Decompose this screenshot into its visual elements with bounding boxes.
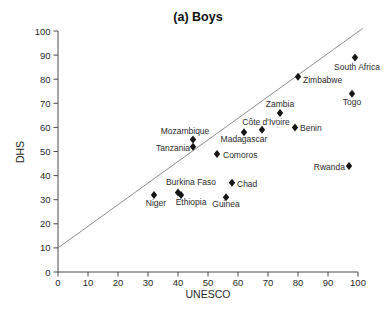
x-tick-label: 70 — [263, 277, 274, 288]
x-axis-label: UNESCO — [186, 288, 231, 300]
data-point-label: Tanzania — [156, 143, 190, 153]
y-tick-label: 0 — [45, 267, 50, 278]
data-point-label: Rwanda — [314, 162, 345, 172]
data-point-label: Zambia — [266, 99, 295, 109]
y-tick-label: 20 — [40, 218, 51, 229]
y-axis-label: DHS — [14, 141, 26, 163]
data-point-label: Guinea — [212, 199, 240, 209]
y-tick-label: 40 — [40, 170, 51, 181]
data-point-label: Zimbabwe — [303, 75, 342, 85]
x-tick-label: 80 — [293, 277, 304, 288]
data-point-marker — [346, 162, 352, 170]
scatter-figure: (a) Boys UNESCO DHS 01020304050607080901… — [0, 0, 391, 319]
data-points: South AfricaZimbabweTogoZambiaBeninCôte … — [146, 54, 380, 210]
data-point-marker — [190, 135, 196, 143]
data-point-label: Burkina Faso — [166, 177, 216, 187]
x-tick-label: 0 — [55, 277, 60, 288]
data-point-label: Chad — [237, 179, 258, 189]
data-point-marker — [277, 109, 283, 117]
data-point-marker — [292, 123, 298, 131]
data-point-label: Mozambique — [161, 126, 210, 136]
chart-canvas: (a) Boys UNESCO DHS 01020304050607080901… — [0, 0, 391, 319]
x-tick-label: 20 — [113, 277, 124, 288]
data-point-label: Togo — [343, 97, 362, 107]
y-tick-label: 50 — [40, 146, 51, 157]
x-tick-label: 50 — [203, 277, 214, 288]
data-point-label: Ethiopia — [176, 197, 207, 207]
y-tick-label: 90 — [40, 50, 51, 61]
data-point-label: Côte d'Ivoire — [242, 117, 290, 127]
data-point-label: Comoros — [223, 150, 257, 160]
data-point-label: Niger — [146, 198, 166, 208]
reference-line — [58, 29, 363, 248]
y-tick-label: 30 — [40, 194, 51, 205]
y-tick-label: 70 — [40, 98, 51, 109]
data-point-marker — [259, 126, 265, 134]
y-tick-label: 60 — [40, 122, 51, 133]
chart-title: (a) Boys — [173, 10, 222, 24]
y-tick-label: 100 — [35, 26, 51, 37]
data-point-marker — [214, 150, 220, 158]
reference-line-group — [58, 29, 363, 248]
data-point-label: South Africa — [334, 62, 380, 72]
y-tick-label: 80 — [40, 74, 51, 85]
x-tick-label: 90 — [323, 277, 334, 288]
axes: 0102030405060708090100010203040506070809… — [35, 26, 366, 289]
data-point-marker — [229, 179, 235, 187]
x-tick-label: 60 — [233, 277, 244, 288]
y-tick-label: 10 — [40, 242, 51, 253]
x-tick-label: 40 — [173, 277, 184, 288]
data-point-label: Madagascar — [221, 134, 268, 144]
data-point-label: Benin — [300, 123, 322, 133]
x-tick-label: 100 — [350, 277, 366, 288]
x-tick-label: 10 — [83, 277, 94, 288]
data-point-marker — [352, 54, 358, 62]
x-tick-label: 30 — [143, 277, 154, 288]
